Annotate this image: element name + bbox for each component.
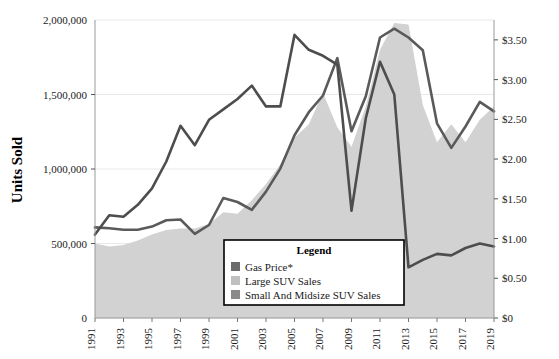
suv-sales-gas-price-chart: 0500,0001,000,0001,500,0002,000,000 $0$0… xyxy=(0,0,559,359)
left-axis-ticks: 0500,0001,000,0001,500,0002,000,000 xyxy=(43,14,95,324)
right-tick-label: $0 xyxy=(502,312,514,324)
x-tick-label: 2009 xyxy=(342,328,354,351)
x-tick-label: 2015 xyxy=(427,328,439,351)
left-tick-label: 1,000,000 xyxy=(43,163,88,175)
legend-title: Legend xyxy=(297,244,332,256)
y-axis-title: Units Sold xyxy=(9,136,25,203)
legend-swatch xyxy=(231,276,240,285)
right-tick-label: $3.50 xyxy=(502,34,527,46)
x-tick-label: 2017 xyxy=(456,328,468,351)
left-tick-label: 500,000 xyxy=(51,238,87,250)
x-tick-label: 1999 xyxy=(199,328,211,351)
legend: Legend Gas Price*Large SUV SalesSmall An… xyxy=(224,240,404,305)
legend-item-label: Small And Midsize SUV Sales xyxy=(245,289,380,301)
x-tick-label: 2013 xyxy=(399,328,411,351)
x-tick-label: 2005 xyxy=(285,328,297,351)
x-tick-label: 1993 xyxy=(114,328,126,351)
left-tick-label: 0 xyxy=(82,312,88,324)
right-tick-label: $2.50 xyxy=(502,113,527,125)
legend-item-label: Large SUV Sales xyxy=(245,275,321,287)
right-tick-label: $2.00 xyxy=(502,153,527,165)
legend-item-label: Gas Price* xyxy=(245,261,293,273)
x-axis-ticks: 1991199319951997199920012003200520072009… xyxy=(85,318,496,350)
x-tick-label: 1995 xyxy=(142,328,154,351)
x-tick-label: 2011 xyxy=(370,328,382,350)
right-axis-ticks: $0$0.50$1.00$1.50$2.00$2.50$3.00$3.50 xyxy=(494,34,527,324)
x-tick-label: 1997 xyxy=(171,328,183,351)
x-tick-label: 2019 xyxy=(484,328,496,351)
x-tick-label: 2001 xyxy=(228,328,240,350)
chart-container: 0500,0001,000,0001,500,0002,000,000 $0$0… xyxy=(0,0,559,359)
right-tick-label: $3.00 xyxy=(502,74,527,86)
x-tick-label: 2007 xyxy=(313,328,325,351)
legend-swatch xyxy=(231,290,240,299)
left-tick-label: 1,500,000 xyxy=(43,89,88,101)
right-tick-label: $0.50 xyxy=(502,272,527,284)
left-tick-label: 2,000,000 xyxy=(43,14,88,26)
legend-swatch xyxy=(231,262,240,271)
x-tick-label: 1991 xyxy=(85,328,97,350)
x-tick-label: 2003 xyxy=(256,328,268,351)
right-tick-label: $1.00 xyxy=(502,233,527,245)
right-tick-label: $1.50 xyxy=(502,193,527,205)
